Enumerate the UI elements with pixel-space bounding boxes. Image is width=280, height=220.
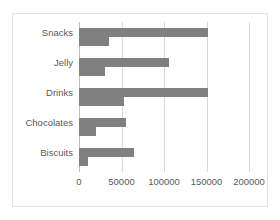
bar-snacks-series1[interactable] <box>79 28 208 37</box>
category-label-drinks: Drinks <box>46 87 73 98</box>
bar-drinks-series2[interactable] <box>79 97 124 106</box>
gridline-200000 <box>249 22 250 172</box>
bar-drinks-series1[interactable] <box>79 88 208 97</box>
bar-biscuits-series1[interactable] <box>79 148 134 157</box>
category-label-jelly: Jelly <box>54 57 73 68</box>
category-label-chocolates: Chocolates <box>25 117 73 128</box>
chart-frame: Snacks Jelly Drinks Chocolates Biscuits <box>12 13 268 207</box>
bar-biscuits-series2[interactable] <box>79 157 88 166</box>
x-axis-tick-labels: 0 50000 100000 150000 200000 <box>79 176 249 190</box>
x-tick-label-150000: 150000 <box>191 176 223 187</box>
category-label-snacks: Snacks <box>42 27 73 38</box>
plot-area: Snacks Jelly Drinks Chocolates Biscuits <box>79 22 249 172</box>
x-tick-label-200000: 200000 <box>233 176 265 187</box>
x-tick-label-0: 0 <box>76 176 81 187</box>
bar-chocolates-series1[interactable] <box>79 118 126 127</box>
bar-jelly-series2[interactable] <box>79 67 105 76</box>
bar-jelly-series1[interactable] <box>79 58 169 67</box>
x-tick-label-100000: 100000 <box>148 176 180 187</box>
bar-snacks-series2[interactable] <box>79 37 109 46</box>
bar-group-jelly: Jelly <box>79 52 249 82</box>
category-label-biscuits: Biscuits <box>40 147 73 158</box>
bar-group-snacks: Snacks <box>79 22 249 52</box>
bar-group-biscuits: Biscuits <box>79 142 249 172</box>
bar-group-chocolates: Chocolates <box>79 112 249 142</box>
bar-group-drinks: Drinks <box>79 82 249 112</box>
x-tick-label-50000: 50000 <box>108 176 134 187</box>
bar-chocolates-series2[interactable] <box>79 127 96 136</box>
